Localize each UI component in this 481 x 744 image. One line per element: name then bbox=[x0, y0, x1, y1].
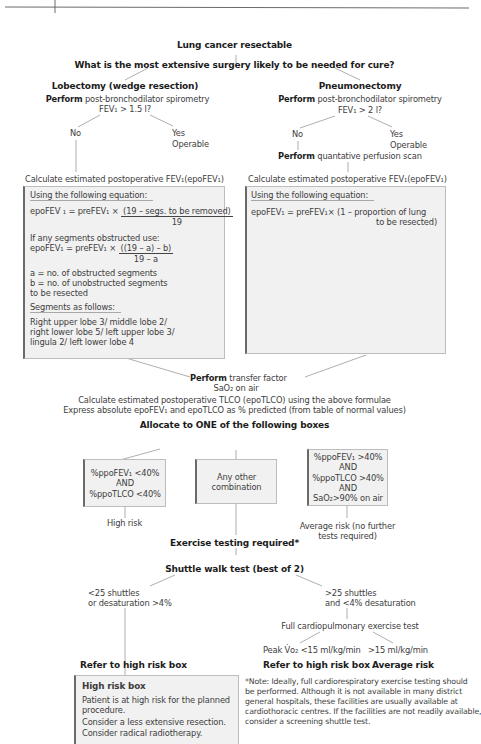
high-risk-line: Consider a less extensive resection. bbox=[82, 717, 226, 727]
perform-label: Perform bbox=[278, 151, 315, 161]
high-risk-line: Patient is at high risk for the planned bbox=[82, 695, 230, 705]
high-risk-box: High risk box Patient is at high risk fo… bbox=[74, 675, 239, 744]
right-branch: >25 shuttles bbox=[325, 588, 376, 599]
note-line: be performed. Although it is not availab… bbox=[245, 687, 462, 698]
cpet-label: Full cardiopulmonary exercise test bbox=[270, 621, 430, 632]
peak-vo2-low: Peak V̇o₂ <15 ml/kg/min bbox=[263, 645, 361, 656]
perform-label: Perform bbox=[278, 94, 315, 104]
high-risk-box-title: High risk box bbox=[82, 681, 146, 691]
perform-label: Perform bbox=[190, 373, 227, 383]
criteria-line: AND bbox=[85, 478, 165, 488]
allocate-box-high-risk: %ppoFEV₁ <40% AND %ppoTLCO <40% bbox=[83, 459, 166, 507]
right-branch: and <4% desaturation bbox=[325, 598, 416, 609]
pneumonectomy-calc: Calculate estimated postoperative FEV₁(e… bbox=[248, 174, 447, 185]
note-line: consider a screening shuttle test. bbox=[245, 717, 370, 728]
criteria-line: AND bbox=[309, 462, 387, 472]
equation-2: epoFEV₁ = preFEV₁ × ((19 – a) – b) 19 – … bbox=[30, 243, 173, 265]
transfer-sao2: SaO₂ on air bbox=[186, 383, 286, 394]
segments-line: Right upper lobe 3/ middle lobe 2/ bbox=[30, 317, 167, 327]
lobectomy-title: Lobectomy (wedge resection) bbox=[30, 81, 220, 92]
box-heading: Using the following equation: bbox=[251, 190, 374, 201]
lobectomy-perform: Perform post-bronchodilator spirometry bbox=[20, 94, 235, 105]
allocate-box-other: Any other combination bbox=[195, 459, 277, 504]
transfer-calc-tlco: Calculate estimated postoperative TLCO (… bbox=[0, 395, 469, 406]
note-line: general hospitals, these facilities are … bbox=[245, 697, 458, 708]
exercise-title: Exercise testing required* bbox=[0, 538, 469, 549]
segments-line: right lower lobe 5/ left upper lobe 3/ bbox=[30, 327, 174, 337]
perform-label: Perform bbox=[46, 94, 83, 104]
equation-2-fraction: ((19 – a) – b) 19 – a bbox=[119, 243, 174, 265]
note-line: cardiothoracic centres. If the facilitie… bbox=[245, 707, 481, 718]
pneumonectomy-perform: Perform post-bronchodilator spirometry bbox=[250, 94, 470, 105]
peak-vo2-high: >15 ml/kg/min bbox=[368, 645, 428, 656]
lobectomy-equation-box: Using the following equation: epoFEV ₁ =… bbox=[23, 186, 225, 359]
criteria-line: SaO₂>90% on air bbox=[309, 493, 387, 503]
lobectomy-yes: Yes bbox=[172, 128, 185, 139]
segments-line: lingula 2/ left lower lobe 4 bbox=[30, 337, 134, 347]
perform-text: transfer factor bbox=[229, 373, 286, 383]
criteria-line: %ppoTLCO >40% bbox=[309, 473, 387, 483]
lobectomy-calc: Calculate estimated postoperative FEV₁(e… bbox=[25, 174, 224, 185]
pneumonectomy-yes: Yes bbox=[390, 129, 403, 140]
equation-1: epoFEV ₁ = preFEV₁ × (19 – segs. to be r… bbox=[30, 206, 233, 228]
transfer-perform: Perform transfer factor bbox=[190, 373, 287, 384]
refer-high-risk-mid: Refer to high risk box bbox=[263, 660, 370, 671]
segments-heading: Segments as follows: bbox=[30, 302, 121, 313]
lobectomy-operable: Operable bbox=[172, 139, 209, 150]
perform-text: post-bronchodilator spirometry bbox=[317, 94, 441, 104]
refer-high-risk-left: Refer to high risk box bbox=[80, 660, 187, 671]
equation-2-lhs: epoFEV₁ = preFEV₁ × bbox=[30, 243, 116, 253]
equation-2-numerator: ((19 – a) – b) bbox=[119, 243, 174, 254]
definition-b: b = no. of unobstructed segments bbox=[30, 278, 167, 288]
equation-line-1: epoFEV₁ = preFEV₁× (1 – proportion of lu… bbox=[251, 207, 426, 217]
lobectomy-no: No bbox=[70, 128, 81, 139]
note-line: *Note: Ideally, full cardiorespiratory e… bbox=[245, 677, 468, 688]
perform-text: post-bronchodilator spirometry bbox=[85, 94, 209, 104]
definition-a: a = no. of obstructed segments bbox=[30, 268, 157, 278]
pneumonectomy-operable: Operable bbox=[390, 140, 427, 151]
definition-b-cont: to be resected bbox=[30, 288, 88, 298]
lobectomy-criterion: FEV₁ > 1.5 l? bbox=[70, 104, 180, 115]
perform-text: quantative perfusion scan bbox=[317, 151, 421, 161]
high-risk-line: procedure. bbox=[82, 705, 125, 715]
allocate-title: Allocate to ONE of the following boxes bbox=[0, 420, 469, 431]
equation-line-2: to be resected) bbox=[376, 217, 437, 227]
criteria-line: AND bbox=[309, 483, 387, 493]
equation-1-fraction: (19 – segs. to be removed) 19 bbox=[121, 206, 233, 228]
left-branch: <25 shuttles bbox=[88, 588, 139, 599]
shuttle-title: Shuttle walk test (best of 2) bbox=[0, 564, 469, 575]
criteria-line: %ppoTLCO <40% bbox=[85, 489, 165, 499]
perfusion-scan: Perform quantative perfusion scan bbox=[278, 151, 422, 162]
high-risk-line: Consider radical radiotherapy. bbox=[82, 728, 202, 738]
criteria-line: combination bbox=[197, 482, 276, 492]
root-question: What is the most extensive surgery likel… bbox=[0, 60, 469, 71]
equation-2-denominator: 19 – a bbox=[134, 254, 158, 264]
high-risk-outcome: High risk bbox=[83, 518, 166, 529]
equation-1-lhs: epoFEV ₁ = preFEV₁ × bbox=[30, 206, 119, 216]
criteria-line: Any other bbox=[197, 472, 276, 482]
average-risk-outcome: Average risk (no further bbox=[290, 521, 405, 532]
obstructed-intro: If any segments obstructed use: bbox=[30, 233, 160, 243]
criteria-line: %ppoFEV₁ <40% bbox=[85, 468, 165, 478]
average-risk-result: Average risk bbox=[372, 660, 434, 671]
allocate-box-average-risk: %ppoFEV₁ >40% AND %ppoTLCO >40% AND SaO₂… bbox=[307, 449, 388, 506]
criteria-line: %ppoFEV₁ >40% bbox=[309, 452, 387, 462]
equation-1-numerator: (19 – segs. to be removed) bbox=[121, 206, 233, 217]
pneumonectomy-equation-box: Using the following equation: epoFEV₁ = … bbox=[245, 186, 446, 354]
pneumonectomy-title: Pneumonectomy bbox=[290, 81, 430, 92]
left-branch: or desaturation >4% bbox=[88, 598, 172, 609]
box-heading: Using the following equation: bbox=[30, 190, 153, 201]
equation-1-denominator: 19 bbox=[172, 217, 182, 227]
transfer-express: Express absolute epoFEV₁ and epoTLCO as … bbox=[0, 405, 469, 416]
root-title: Lung cancer resectable bbox=[0, 40, 469, 51]
pneumonectomy-no: No bbox=[292, 129, 303, 140]
pneumonectomy-criterion: FEV₁ > 2 l? bbox=[310, 105, 410, 116]
